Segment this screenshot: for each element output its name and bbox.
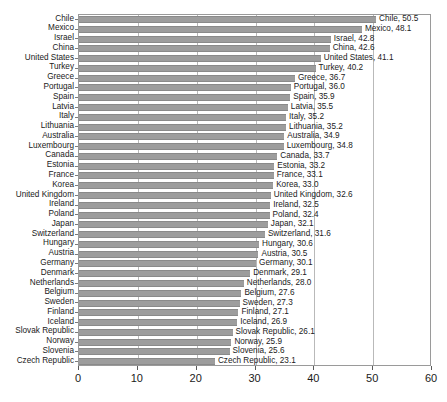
category-label: Luxembourg	[0, 141, 74, 151]
category-label: Germany	[0, 258, 74, 268]
bar	[79, 16, 376, 23]
bar	[79, 270, 250, 277]
bar	[79, 300, 240, 307]
bar-row: Estonia, 33.2	[79, 162, 430, 172]
category-label: United Kingdom	[0, 190, 74, 200]
value-tick-label: 60	[425, 372, 437, 384]
bar-row: Luxembourg, 34.8	[79, 142, 430, 152]
category-label: Denmark	[0, 268, 74, 278]
value-tick-label: 20	[190, 372, 202, 384]
category-label: Chile	[0, 14, 74, 24]
bar-row: United Kingdom, 32.6	[79, 191, 430, 201]
bar-row: Israel, 42.8	[79, 35, 430, 45]
bar	[79, 251, 258, 258]
bar	[79, 153, 277, 160]
bar	[79, 114, 286, 121]
bar	[79, 212, 270, 219]
category-label: Netherlands	[0, 278, 74, 288]
bar	[79, 55, 321, 62]
bar-row: Lithuania, 35.2	[79, 123, 430, 133]
bar	[79, 319, 237, 326]
value-tick	[78, 366, 79, 370]
value-tick	[255, 366, 256, 370]
value-tick	[137, 366, 138, 370]
bar	[79, 280, 244, 287]
category-label: Latvia	[0, 102, 74, 112]
bar	[79, 172, 274, 179]
bar-row: Turkey, 40.2	[79, 64, 430, 74]
category-label: Greece	[0, 72, 74, 82]
bar-row: Latvia, 35.5	[79, 103, 430, 113]
value-tick	[196, 366, 197, 370]
category-label: Lithuania	[0, 121, 74, 131]
bar-row: Poland, 32.4	[79, 211, 430, 221]
bar	[79, 260, 256, 267]
bar	[79, 26, 362, 33]
bar-row: Hungary, 30.6	[79, 240, 430, 250]
value-axis: 0102030405060	[78, 366, 431, 396]
bar	[79, 133, 284, 140]
category-label: Switzerland	[0, 229, 74, 239]
category-label: Spain	[0, 92, 74, 102]
value-tick-label: 50	[366, 372, 378, 384]
bar	[79, 36, 331, 43]
bar-row: France, 33.1	[79, 171, 430, 181]
category-label: Poland	[0, 209, 74, 219]
category-label: Australia	[0, 131, 74, 141]
bar	[79, 75, 295, 82]
bar	[79, 45, 330, 52]
bar-row: Switzerland, 31.6	[79, 230, 430, 240]
bars-layer: Chile, 50.5Mexico, 48.1Israel, 42.8China…	[79, 15, 430, 365]
category-label: Canada	[0, 150, 74, 160]
category-label: Norway	[0, 336, 74, 346]
bar	[79, 104, 288, 111]
bar-row: Spain, 35.9	[79, 93, 430, 103]
bar-row: Greece, 36.7	[79, 74, 430, 84]
bar-chart: ChileMexicoIsraelChinaUnited StatesTurke…	[0, 0, 447, 402]
bar	[79, 329, 233, 336]
plot-area: Chile, 50.5Mexico, 48.1Israel, 42.8China…	[78, 14, 431, 366]
bar-row: Australia, 34.9	[79, 132, 430, 142]
bar-row: Korea, 33.0	[79, 181, 430, 191]
category-label: Hungary	[0, 238, 74, 248]
bar	[79, 143, 284, 150]
bar-row: Portugal, 36.0	[79, 83, 430, 93]
bar	[79, 339, 231, 346]
bar	[79, 231, 265, 238]
value-tick	[372, 366, 373, 370]
bar-row: Canada, 33.7	[79, 152, 430, 162]
category-label: Belgium	[0, 287, 74, 297]
bar	[79, 124, 286, 131]
category-label: Estonia	[0, 160, 74, 170]
category-label: Iceland	[0, 317, 74, 327]
category-label: Portugal	[0, 82, 74, 92]
bar	[79, 221, 268, 228]
category-label: Mexico	[0, 23, 74, 33]
bar	[79, 290, 241, 297]
value-tick	[313, 366, 314, 370]
bar	[79, 182, 273, 189]
value-tick-label: 10	[131, 372, 143, 384]
category-label: Japan	[0, 219, 74, 229]
category-label: Sweden	[0, 297, 74, 307]
bar	[79, 348, 230, 355]
category-label: Czech Republic	[0, 356, 74, 366]
value-tick-label: 40	[307, 372, 319, 384]
bar	[79, 163, 274, 170]
value-tick-label: 30	[248, 372, 260, 384]
bar-row: Italy, 35.2	[79, 113, 430, 123]
bar-row: Ireland, 32.5	[79, 201, 430, 211]
category-label: Slovenia	[0, 346, 74, 356]
category-label: Italy	[0, 111, 74, 121]
category-axis: ChileMexicoIsraelChinaUnited StatesTurke…	[0, 14, 74, 366]
bar-row: Japan, 32.1	[79, 220, 430, 230]
category-label: Slovak Republic	[0, 326, 74, 336]
category-label: Korea	[0, 180, 74, 190]
bar-row: Austria, 30.5	[79, 250, 430, 260]
category-label: Ireland	[0, 199, 74, 209]
category-label: France	[0, 170, 74, 180]
category-label: China	[0, 43, 74, 53]
category-label: Finland	[0, 307, 74, 317]
value-tick	[431, 366, 432, 370]
bar	[79, 94, 290, 101]
